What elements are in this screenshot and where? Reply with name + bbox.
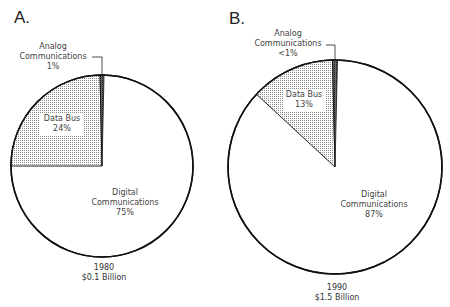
analog-label-a: Analog Communications 1% (18, 42, 88, 72)
databus-pct-b: 13% (283, 100, 325, 110)
caption-b: 1990 $1.5 Billion (307, 283, 367, 303)
analog-pct-b: <1% (253, 49, 323, 59)
databus-pct-a: 24% (40, 124, 84, 134)
analog-label-b: Analog Communications <1% (253, 29, 323, 59)
digital-label-a: Digital Communications 75% (90, 188, 160, 218)
analog-label-b-line1: Analog (253, 29, 323, 39)
digital-label-b-line2: Communications (339, 200, 409, 210)
digital-pct-b: 87% (339, 210, 409, 220)
panel-label-a: A. (14, 8, 30, 28)
databus-label-a: Data Bus 24% (40, 113, 84, 135)
total-a: $0.1 Billion (74, 273, 134, 283)
panel-label-b: B. (229, 9, 245, 29)
pie-b (228, 45, 442, 274)
analog-label-b-line2: Communications (253, 39, 323, 49)
databus-label-b: Data Bus 13% (283, 89, 325, 111)
digital-label-b: Digital Communications 87% (339, 190, 409, 220)
year-b: 1990 (307, 283, 367, 293)
pie-a (11, 57, 193, 257)
analog-label-a-line2: Communications (18, 52, 88, 62)
leader-line-b (326, 45, 335, 60)
caption-a: 1980 $0.1 Billion (74, 263, 134, 283)
digital-pct-a: 75% (90, 208, 160, 218)
databus-label-a-line1: Data Bus (40, 114, 84, 124)
digital-label-a-line2: Communications (90, 198, 160, 208)
digital-label-b-line1: Digital (339, 190, 409, 200)
leader-line-a (92, 57, 102, 75)
analog-label-a-line1: Analog (18, 42, 88, 52)
total-b: $1.5 Billion (307, 293, 367, 303)
year-a: 1980 (74, 263, 134, 273)
digital-label-a-line1: Digital (90, 188, 160, 198)
analog-pct-a: 1% (18, 62, 88, 72)
databus-label-b-line1: Data Bus (283, 90, 325, 100)
